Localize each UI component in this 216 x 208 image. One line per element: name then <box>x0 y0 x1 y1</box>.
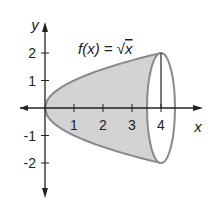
y-axis-up-arrow-icon <box>42 22 48 32</box>
x-axis-left-arrow-icon <box>20 105 28 111</box>
solid-of-revolution-figure: 123421-1-2xyf(x) = √x <box>0 0 216 208</box>
x-axis-label: x <box>193 118 202 135</box>
x-tick-label: 3 <box>128 117 136 133</box>
y-axis-label: y <box>30 16 40 33</box>
y-tick-label: -1 <box>24 128 37 144</box>
y-tick-label: -2 <box>24 155 37 171</box>
x-tick-label: 2 <box>99 117 107 133</box>
y-tick-label: 1 <box>28 73 36 89</box>
y-axis-down-arrow-icon <box>42 188 48 198</box>
y-tick-label: 2 <box>28 45 36 61</box>
x-axis-right-arrow-icon <box>193 105 203 111</box>
x-tick-label: 1 <box>70 117 78 133</box>
x-tick-label: 4 <box>157 117 165 133</box>
function-label: f(x) = √x <box>78 40 133 57</box>
